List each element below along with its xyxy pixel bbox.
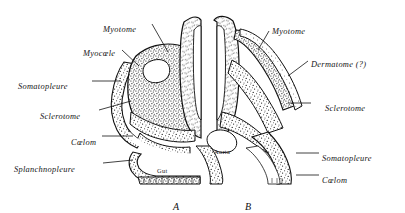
label-myotome-left: Myotome (103, 26, 136, 34)
label-somatopleure-left: Somatopleure (18, 83, 68, 91)
gut-epithelium-left (138, 177, 200, 184)
leader-dermatome-right (288, 61, 308, 76)
label-somatopleure-right: Somatopleure (322, 155, 372, 163)
panel-label-b: B (245, 201, 252, 212)
panel-label-a: A (173, 201, 180, 212)
panel-a-section (111, 17, 201, 184)
myocoele-cavity (143, 60, 170, 83)
label-splanchnopleure-left: Splanchnopleure (14, 166, 75, 174)
leader-splanchnopleure-left (103, 160, 133, 163)
label-myocoele-left: Myocœle (83, 50, 115, 58)
label-sclerotome-left: Sclerotome (40, 113, 80, 121)
label-aorta: Aorta (214, 148, 230, 155)
label-myotome-right: Myotome (272, 28, 305, 36)
label-sclerotome-right: Sclerotome (325, 105, 365, 113)
label-dermatome-right: Dermatome (?) (311, 61, 366, 69)
label-coelom-right: Cœlom (322, 177, 347, 185)
embryology-figure: Myotome Myocœle Somatopleure Sclerotome … (0, 0, 405, 213)
label-gut: Gut (157, 167, 168, 174)
label-coelom-left: Cœlom (71, 139, 96, 147)
panel-b-section (196, 16, 302, 184)
